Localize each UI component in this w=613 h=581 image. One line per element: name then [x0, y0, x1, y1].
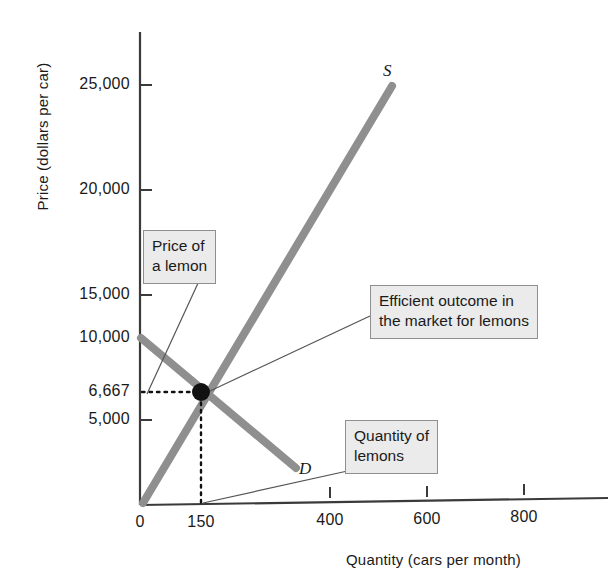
equilibrium-point [192, 383, 210, 401]
y-label-10000: 10,000 [40, 328, 130, 346]
callout-price-of-lemon: Price of a lemon [143, 230, 216, 284]
callout-price-of-lemon-line2: a lemon [152, 256, 207, 276]
callout-quantity-of-lemons-line1: Quantity of [354, 426, 429, 446]
x-label-400: 400 [295, 511, 365, 529]
callout-efficient-outcome: Efficient outcome in the market for lemo… [370, 285, 538, 339]
y-axis-title: Price (dollars per car) [34, 37, 51, 237]
demand-curve-label: D [299, 459, 311, 479]
callout-quantity-of-lemons: Quantity of lemons [345, 420, 438, 474]
y-label-6667: 6,667 [40, 382, 130, 400]
callout-price-of-lemon-line1: Price of [152, 236, 207, 256]
callout-efficient-outcome-line1: Efficient outcome in [379, 291, 529, 311]
y-label-25000: 25,000 [40, 75, 130, 93]
callout-quantity-of-lemons-line2: lemons [354, 446, 429, 466]
supply-curve-label: S [383, 61, 392, 81]
callout-efficient-outcome-line2: the market for lemons [379, 311, 529, 331]
x-label-800: 800 [489, 508, 559, 526]
y-label-20000: 20,000 [40, 180, 130, 198]
leader-quantity-of-lemons [203, 470, 352, 503]
y-label-5000: 5,000 [40, 410, 130, 428]
x-label-600: 600 [392, 510, 462, 528]
x-label-0: 0 [105, 513, 175, 531]
y-label-15000: 15,000 [40, 285, 130, 303]
x-axis-title: Quantity (cars per month) [346, 551, 521, 568]
lemons-market-chart: Price (dollars per car) Quantity (cars p… [0, 0, 613, 581]
x-label-150: 150 [166, 513, 236, 531]
